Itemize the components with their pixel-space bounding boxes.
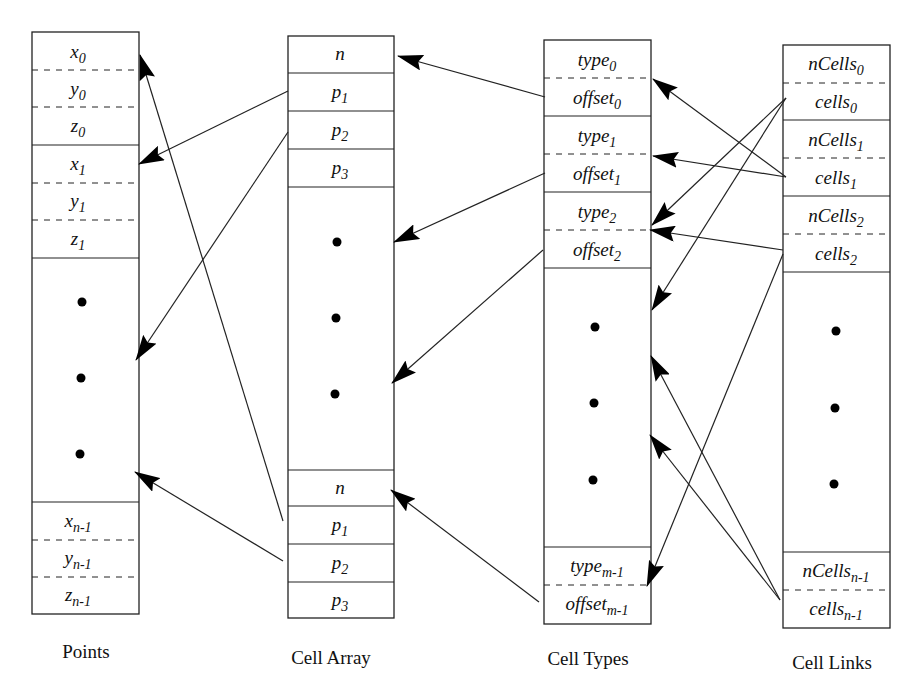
ellipsis-dot	[332, 314, 341, 323]
arrow-cells-n-1-to-cell-types-2	[650, 435, 780, 600]
cell-array-n-bottom: n	[335, 477, 345, 498]
arrow-offset-m-1-to-n	[391, 490, 539, 602]
arrow-cells1-to-type0	[653, 79, 786, 177]
ellipsis-dot	[831, 404, 840, 413]
arrow-cells-n-1-to-cell-types	[651, 356, 780, 600]
arrow-p1-bottom-to-x0	[140, 55, 283, 521]
arrow-offset2-to-cell-array	[392, 250, 543, 383]
arrow-p2-bottom-to-points	[135, 472, 283, 561]
points-array: x0 y0 z0 x1 y1 z1 xn-1 yn-1 zn-1 Points	[32, 32, 139, 662]
arrow-cells1-to-type1	[653, 156, 786, 177]
cell-links-label: Cell Links	[792, 652, 872, 673]
cell-array: n p1 p2 p3 n p1 p2 p3 Cell Array	[288, 36, 394, 668]
ellipsis-dot	[77, 374, 86, 383]
ellipsis-dot	[76, 450, 85, 459]
points-label: Points	[62, 641, 110, 662]
ellipsis-dot	[832, 327, 841, 336]
arrow-p1-to-x1	[139, 91, 288, 164]
vtk-cell-structure-diagram: x0 y0 z0 x1 y1 z1 xn-1 yn-1 zn-1 Points …	[0, 0, 917, 699]
ellipsis-dot	[591, 323, 600, 332]
cell-types-label: Cell Types	[547, 648, 628, 669]
cell-array-label: Cell Array	[291, 647, 371, 668]
cell-types: type0 offset0 type1 offset1 type2 offset…	[544, 40, 651, 669]
ellipsis-dot	[78, 298, 87, 307]
ellipsis-dot	[333, 238, 342, 247]
cell-array-n-top: n	[335, 43, 345, 64]
ellipsis-dot	[830, 480, 839, 489]
cell-links: nCells0 cells0 nCells1 cells1 nCells2 ce…	[783, 45, 890, 673]
arrow-cells2-to-type2	[650, 230, 783, 250]
arrow-cells2-to-type-m-1	[647, 254, 783, 586]
arrow-p2-to-points-ellipsis	[136, 132, 288, 360]
arrow-offset1-to-cell-array	[394, 173, 545, 242]
pointer-arrows	[135, 55, 786, 602]
arrow-cells0-to-cell-types	[652, 98, 786, 310]
ellipsis-dot	[590, 399, 599, 408]
ellipsis-dot	[331, 390, 340, 399]
ellipsis-dot	[589, 476, 598, 485]
arrow-offset0-to-n	[398, 56, 545, 97]
